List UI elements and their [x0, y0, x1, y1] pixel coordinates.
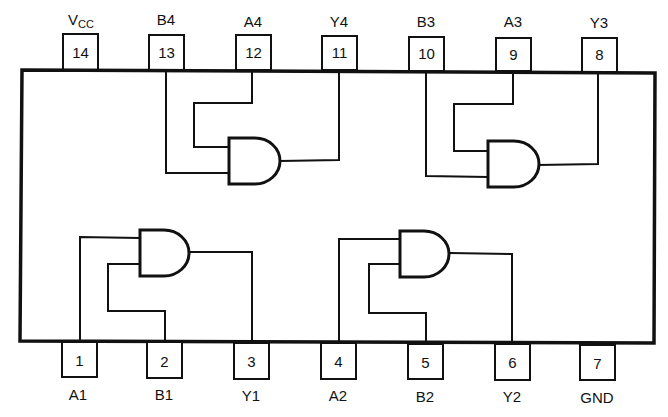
pin-number: 13 [158, 44, 175, 61]
wire-y2 [450, 253, 512, 343]
pin-number: 8 [595, 46, 603, 63]
wire-b3 [426, 72, 488, 177]
pin-label-gnd: GND [580, 389, 614, 406]
wire-a1 [80, 237, 140, 341]
and-gate-4-icon [229, 138, 280, 184]
gate-3 [426, 72, 598, 187]
pin-label-y2: Y2 [503, 388, 521, 405]
pin-13: 13 [149, 35, 184, 70]
pin-label-y1: Y1 [242, 387, 260, 404]
bottom-pins: 1 2 3 4 5 6 7 [62, 342, 615, 380]
wire-y3 [538, 73, 598, 165]
pin-label-b3: B3 [417, 13, 435, 30]
pin-label-a1: A1 [69, 386, 87, 403]
pin-label-a3: A3 [504, 13, 522, 30]
pin-number: 3 [247, 353, 255, 370]
gate-2 [339, 231, 512, 343]
pin-7: 7 [580, 345, 615, 380]
pin-number: 5 [421, 354, 429, 371]
and-gate-1-icon [140, 230, 189, 276]
pin-label-b1: B1 [155, 386, 173, 403]
pin-label-y3: Y3 [590, 14, 608, 31]
pin-4: 4 [321, 343, 356, 379]
bottom-pin-labels: A1 B1 Y1 A2 B2 Y2 GND [69, 386, 614, 406]
and-gate-3-icon [488, 141, 539, 187]
wire-b4 [166, 71, 229, 173]
wire-a3 [454, 72, 513, 151]
pin-5: 5 [408, 344, 443, 379]
wire-a4 [194, 71, 252, 147]
pin-number: 14 [72, 44, 89, 61]
wire-y4 [280, 72, 339, 161]
chip-body [20, 70, 655, 343]
top-pin-labels: VCC B4 A4 Y4 B3 A3 Y3 [68, 11, 608, 31]
and-gate-2-icon [400, 231, 449, 277]
pin-number: 2 [160, 353, 168, 370]
pin-9: 9 [496, 38, 531, 71]
pin-number: 9 [509, 46, 517, 63]
gate-4 [166, 71, 339, 184]
pin-label-b2: B2 [416, 388, 434, 405]
pin-6: 6 [495, 344, 530, 380]
pin-label-b4: B4 [157, 11, 175, 28]
pin-number: 11 [332, 44, 348, 61]
pin-label-a4: A4 [244, 13, 262, 30]
pin-label-vcc: VCC [68, 11, 94, 30]
pin-number: 6 [508, 354, 516, 371]
pin-label-y4: Y4 [330, 13, 348, 30]
pin-10: 10 [409, 37, 444, 71]
pin-3: 3 [234, 343, 269, 379]
pin-number: 4 [334, 353, 342, 370]
pin-1: 1 [62, 342, 97, 377]
pin-number: 10 [418, 45, 435, 62]
pin-12: 12 [236, 35, 271, 70]
pin-11: 11 [322, 36, 357, 70]
gate-1 [80, 230, 252, 342]
pin-number: 12 [245, 44, 262, 61]
pin-label-a2: A2 [329, 387, 347, 404]
pin-number: 1 [75, 352, 83, 369]
pin-14: 14 [63, 34, 98, 70]
ic-diagram: VCC B4 A4 Y4 B3 A3 Y3 14 13 12 11 10 [0, 0, 668, 417]
pin-number: 7 [593, 355, 601, 372]
pin-8: 8 [582, 38, 617, 72]
top-pins: 14 13 12 11 10 9 8 [63, 34, 617, 72]
wire-y1 [190, 252, 252, 342]
pin-2: 2 [147, 342, 182, 378]
